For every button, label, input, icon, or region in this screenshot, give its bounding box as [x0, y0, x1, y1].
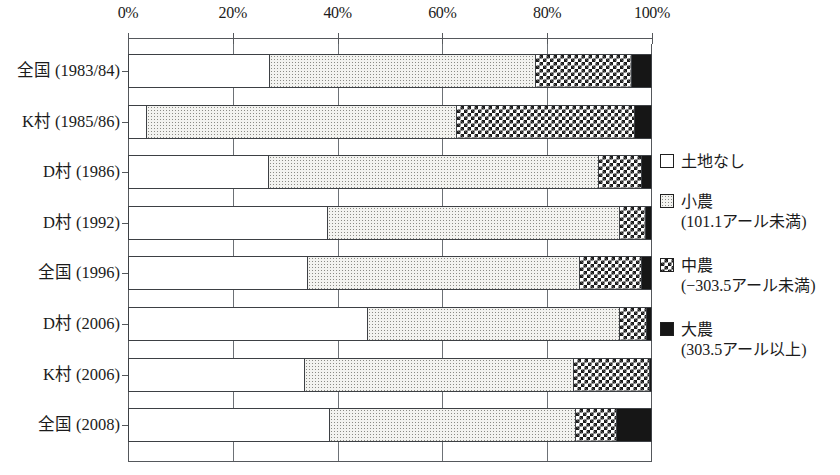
x-axis-tick-label: 100% — [634, 4, 670, 22]
legend-sublabel: (303.5アール以上) — [681, 340, 807, 359]
x-axis-tick — [442, 33, 443, 44]
swatch-none-icon — [660, 154, 674, 168]
bar-segment-large — [646, 308, 652, 340]
stacked-bar-chart: 0%20%40%60%80%100% 全国 (1983/84)K村 (1985/… — [0, 0, 840, 475]
x-axis-tick-label: 0% — [118, 4, 139, 22]
bar-row — [128, 358, 652, 392]
x-axis-tick-labels: 0%20%40%60%80%100% — [0, 0, 840, 30]
bar-segment-medium — [619, 308, 646, 340]
category-label: 全国 (1983/84) — [0, 54, 124, 88]
bar-segment-large — [631, 55, 652, 87]
x-axis-tick — [233, 33, 234, 44]
bar-segment-none — [129, 156, 268, 188]
bar-segment-medium — [598, 156, 641, 188]
category-label: D村 (2006) — [0, 307, 124, 341]
category-label: 全国 (1996) — [0, 256, 124, 290]
bar-segment-none — [129, 106, 146, 138]
x-axis-tick — [547, 33, 548, 44]
stacked-bar — [128, 256, 652, 290]
stacked-bar — [128, 155, 652, 189]
category-label: 全国 (2008) — [0, 408, 124, 442]
bar-segment-medium — [619, 207, 645, 239]
bar-segment-none — [129, 409, 329, 441]
bar-segment-large — [616, 409, 652, 441]
stacked-bar — [128, 358, 652, 392]
stacked-bar — [128, 54, 652, 88]
bar-segment-medium — [579, 257, 641, 289]
bar-segment-medium — [575, 409, 616, 441]
legend-sublabel: (101.1アール未満) — [681, 212, 807, 231]
bar-row — [128, 408, 652, 442]
swatch-large-icon — [660, 322, 674, 336]
bar-segment-large — [645, 207, 652, 239]
stacked-bar — [128, 105, 652, 139]
bar-row — [128, 105, 652, 139]
stacked-bar — [128, 408, 652, 442]
swatch-small-icon — [660, 194, 674, 208]
bar-segment-small — [367, 308, 619, 340]
bar-segment-small — [327, 207, 619, 239]
x-axis-tick — [128, 33, 129, 44]
bar-segment-large — [641, 156, 652, 188]
stacked-bar — [128, 307, 652, 341]
bar-row — [128, 307, 652, 341]
stacked-bar — [128, 206, 652, 240]
category-label: D村 (1992) — [0, 206, 124, 240]
x-axis-tick — [338, 33, 339, 44]
category-label: K村 (2006) — [0, 358, 124, 392]
category-label: D村 (1986) — [0, 155, 124, 189]
bar-row — [128, 256, 652, 290]
legend-label: 大農 — [681, 320, 713, 339]
bar-segment-large — [634, 106, 652, 138]
bar-segment-small — [304, 359, 573, 391]
legend-sublabel: (−303.5アール未満) — [681, 276, 816, 295]
x-axis-tick — [652, 33, 653, 44]
bar-segment-none — [129, 207, 327, 239]
x-axis-tick-label: 40% — [323, 4, 351, 22]
bar-segment-small — [269, 55, 535, 87]
bar-segment-small — [146, 106, 456, 138]
bar-segment-medium — [535, 55, 631, 87]
legend-label: 中農 — [681, 256, 713, 275]
bar-segment-none — [129, 359, 304, 391]
swatch-medium-icon — [660, 258, 674, 272]
x-axis-tick-label: 20% — [219, 4, 247, 22]
x-axis-tick-label: 80% — [533, 4, 561, 22]
x-axis-tick-label: 60% — [428, 4, 456, 22]
x-axis-line — [128, 38, 652, 39]
legend-label: 土地なし — [681, 152, 745, 171]
bar-segment-none — [129, 257, 307, 289]
bar-segment-medium — [456, 106, 634, 138]
bar-segment-small — [307, 257, 579, 289]
bar-segment-none — [129, 308, 367, 340]
bar-segment-small — [329, 409, 575, 441]
bar-segment-none — [129, 55, 269, 87]
bar-segment-medium — [573, 359, 649, 391]
bar-segment-large — [649, 359, 652, 391]
legend-label: 小農 — [681, 192, 713, 211]
bar-row — [128, 155, 652, 189]
bar-row — [128, 206, 652, 240]
bar-row — [128, 54, 652, 88]
category-label: K村 (1985/86) — [0, 105, 124, 139]
bar-segment-large — [641, 257, 652, 289]
bar-segment-small — [268, 156, 598, 188]
